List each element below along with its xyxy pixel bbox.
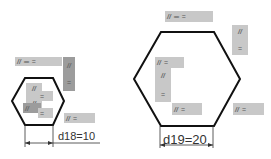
equal-icon: =: [164, 58, 168, 67]
parallel-icon: //: [235, 105, 239, 114]
equal-icon: =: [32, 57, 36, 66]
arrow-head: [48, 141, 53, 145]
symbol-tag[interactable]: // =: [155, 68, 171, 102]
symbol-tag[interactable]: // =: [172, 103, 202, 115]
equal-icon: =: [242, 105, 246, 114]
parallel-icon: //: [17, 57, 21, 66]
parallel-icon: //: [161, 71, 165, 80]
flush-icon: ═: [24, 57, 29, 66]
symbol-tag[interactable]: // ═ =: [15, 57, 62, 66]
symbol-tag[interactable]: // =: [233, 103, 264, 115]
parallel-icon: //: [174, 105, 178, 114]
equal-icon: =: [181, 105, 185, 114]
equal-icon: =: [73, 114, 77, 123]
dimension-label-d18: d18=10: [58, 130, 95, 142]
equal-icon: =: [40, 92, 44, 101]
symbol-tag[interactable]: // =: [63, 57, 75, 91]
parallel-icon: //: [25, 104, 29, 113]
parallel-icon: //: [238, 27, 242, 36]
equal-icon: =: [40, 109, 44, 118]
parallel-icon: //: [157, 58, 161, 67]
symbol-tag[interactable]: // ═ =: [165, 11, 213, 22]
equal-icon: =: [182, 12, 186, 21]
parallel-icon: //: [67, 61, 71, 70]
equal-icon: =: [67, 78, 71, 87]
symbol-tag[interactable]: // =: [64, 113, 95, 123]
symbol-tag[interactable]: =: [38, 91, 53, 101]
diagram-canvas: [0, 0, 271, 159]
parallel-icon: //: [167, 12, 171, 21]
arrow-head: [25, 141, 30, 145]
parallel-icon: //: [66, 114, 70, 123]
dimension-label-d19: d19=20: [163, 132, 207, 147]
arrow-head: [208, 143, 213, 147]
symbol-tag[interactable]: // =: [155, 57, 184, 68]
symbol-tag[interactable]: // =: [232, 25, 248, 55]
parallel-icon: //: [32, 84, 36, 93]
symbol-tag[interactable]: =: [38, 108, 53, 118]
equal-icon: =: [238, 44, 242, 53]
equal-icon: =: [161, 90, 165, 99]
flush-icon: ═: [174, 12, 179, 21]
